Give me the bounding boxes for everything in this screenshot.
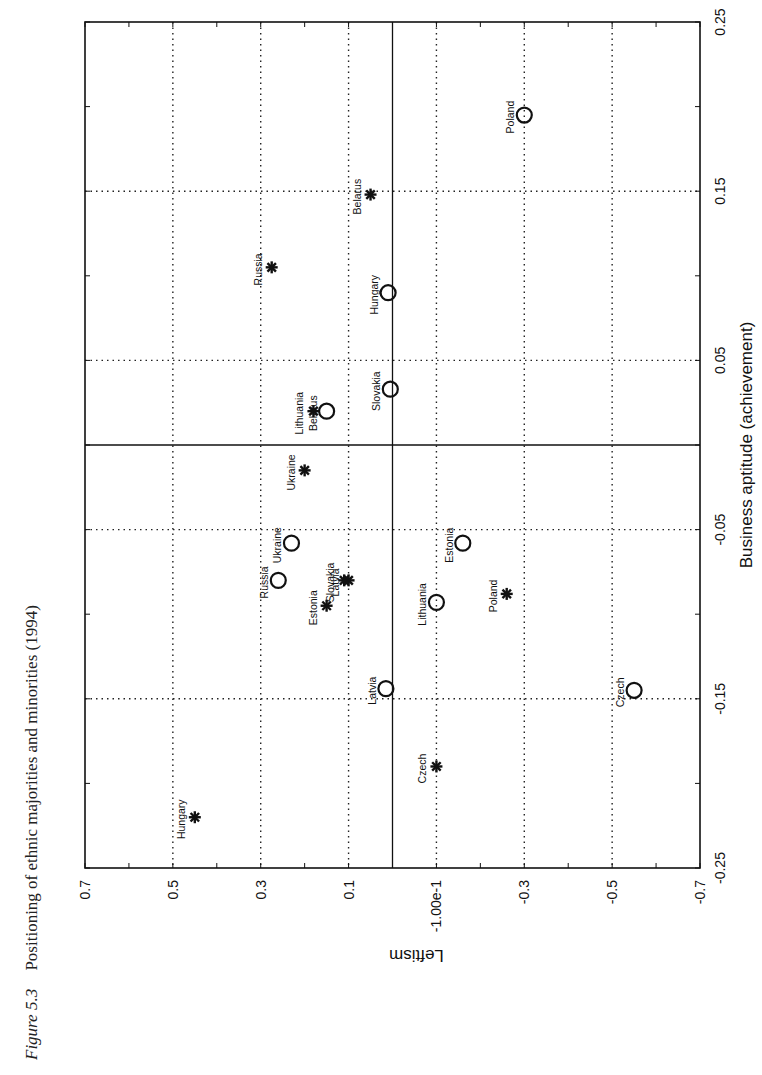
point-label: Estonia: [443, 527, 455, 562]
leftism-tick-label: -0.7: [692, 880, 708, 904]
leftism-axis-title: Leftism: [389, 946, 444, 965]
point-label: Russia: [258, 566, 270, 598]
circle-marker-hungary: [381, 285, 396, 300]
point-label: Czech: [614, 677, 626, 707]
point-label: Latvia: [366, 676, 378, 704]
point-label: Belarus: [351, 179, 363, 215]
point-label: Estonia: [307, 590, 319, 625]
asterisk-marker: [266, 261, 278, 273]
business-tick-label: -0.05: [712, 513, 728, 545]
circle-marker-estonia: [455, 536, 470, 551]
leftism-tick-label: 0.1: [341, 880, 357, 900]
business-tick-label: 0.15: [712, 177, 728, 204]
point-label: Latvia: [329, 568, 341, 596]
leftism-tick-label: -0.3: [516, 880, 532, 904]
asterisk-marker: [343, 574, 355, 586]
business-axis-title: Business aptitude (achievement): [737, 322, 756, 569]
point-label: Hungary: [175, 799, 187, 839]
business-tick-label: -0.15: [712, 683, 728, 715]
asterisk-marker: [321, 600, 333, 612]
asterisk-marker: [307, 405, 319, 417]
circle-marker-slovakia: [383, 382, 398, 397]
circle-marker-poland: [517, 108, 532, 123]
asterisk-marker: [501, 588, 513, 600]
point-label: Lithuania: [416, 583, 428, 626]
leftism-tick-label: -0.5: [604, 880, 620, 904]
business-tick-label: 0.25: [712, 8, 728, 35]
leftism-tick-label: 0.7: [77, 880, 93, 900]
leftism-tick-label: 0.5: [165, 880, 181, 900]
point-label: Russia: [252, 253, 264, 285]
business-tick-label: 0.05: [712, 347, 728, 374]
point-label: Lithuania: [293, 392, 305, 435]
point-label: Czech: [416, 753, 428, 783]
circle-marker-ukraine: [284, 536, 299, 551]
leftism-tick-label: -1.00e-1: [428, 880, 444, 932]
leftism-tick-label: 0.3: [253, 880, 269, 900]
circle-marker-czech: [627, 683, 642, 698]
point-label: Ukraine: [285, 454, 297, 490]
asterisk-marker: [189, 811, 201, 823]
point-label: Ukraine: [271, 527, 283, 563]
circle-marker-latvia: [378, 681, 393, 696]
asterisk-marker: [430, 760, 442, 772]
asterisk-marker: [299, 464, 311, 476]
asterisk-marker: [365, 189, 377, 201]
point-label: Hungary: [368, 274, 380, 314]
circle-marker-lithuania: [429, 595, 444, 610]
point-label: Slovakia: [370, 371, 382, 411]
point-label: Poland: [504, 101, 516, 134]
scatter-chart: 0.70.50.30.1-1.00e-1-0.3-0.5-0.7-0.25-0.…: [0, 0, 762, 1075]
circle-marker-belarus: [319, 404, 334, 419]
business-tick-label: -0.25: [712, 852, 728, 884]
circle-marker-russia: [271, 573, 286, 588]
point-label: Poland: [487, 579, 499, 612]
